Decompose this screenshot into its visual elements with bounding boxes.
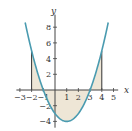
x-tick-label: 4	[99, 93, 104, 102]
parabola-chart: −3−2−1123458642−2−4 x y	[0, 0, 132, 131]
y-tick-label: 6	[46, 39, 51, 48]
y-tick-label: 4	[46, 55, 51, 64]
x-axis-label: x	[124, 85, 129, 95]
x-tick-label: −2	[26, 93, 38, 102]
x-tick-label: 5	[111, 93, 116, 102]
y-tick-label: −4	[39, 117, 51, 126]
x-tick-label: 1	[64, 93, 69, 102]
y-axis-label: y	[50, 6, 57, 16]
y-tick-label: 8	[46, 23, 51, 32]
y-tick-label: 2	[46, 70, 51, 79]
x-tick-label: 2	[76, 93, 81, 102]
x-tick-label: −3	[14, 93, 26, 102]
